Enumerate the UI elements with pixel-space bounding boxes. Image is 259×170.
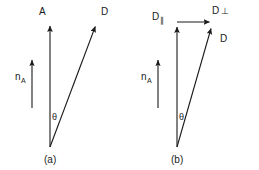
panel-a-vectors <box>32 26 95 147</box>
label-vector-D-panel-a: D <box>101 7 108 17</box>
label-vector-D-panel-b: D <box>220 34 227 44</box>
caption-panel-b: (b) <box>171 155 183 165</box>
label-vector-A: A <box>39 7 46 17</box>
label-normal-nA-panel-a: nA <box>15 72 26 84</box>
label-normal-n-glyph-b: n <box>141 71 147 82</box>
vector-lines-svg <box>0 0 259 170</box>
label-normal-subscript-A-b: A <box>147 77 152 84</box>
label-vector-D-parallel: D∥ <box>152 12 163 25</box>
label-normal-subscript-A: A <box>21 77 26 84</box>
vector-D-resultant-line <box>177 29 211 148</box>
panel-b-vectors <box>158 22 211 147</box>
vector-diagram-figure: A D nA θ (a) D∥ D⊥ D nA θ (b) <box>0 0 259 170</box>
caption-panel-a: (a) <box>44 155 56 165</box>
label-perpendicular-symbol: ⊥ <box>219 6 229 16</box>
label-angle-theta-panel-b: θ <box>179 113 184 122</box>
label-parallel-symbol: ∥ <box>159 16 163 25</box>
vector-D-line <box>50 27 95 148</box>
label-normal-n-glyph: n <box>15 71 21 82</box>
label-normal-nA-panel-b: nA <box>141 72 152 84</box>
label-angle-theta-panel-a: θ <box>52 113 57 122</box>
label-vector-D-perpendicular: D⊥ <box>212 6 229 16</box>
